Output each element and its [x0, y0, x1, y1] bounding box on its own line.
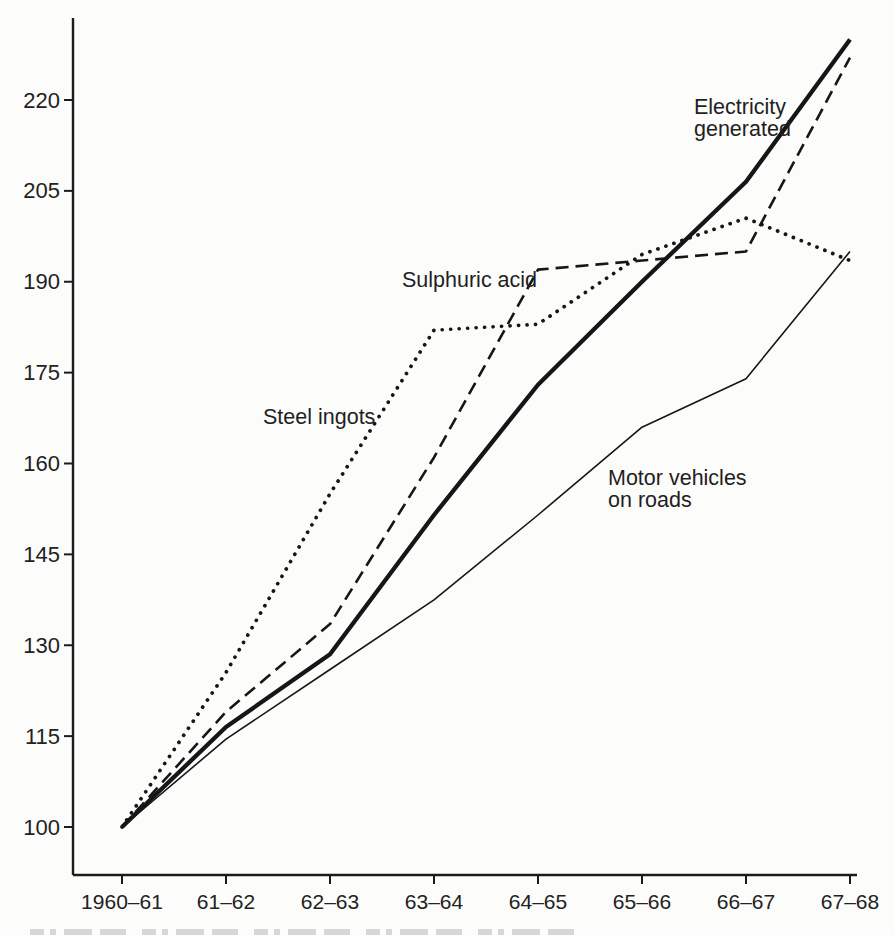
index-line-chart: 1001151301451601751902052201960–6161–626…: [0, 0, 895, 935]
scanned-chart-page: 1001151301451601751902052201960–6161–626…: [0, 0, 895, 935]
x-tick-label: 1960–61: [81, 890, 163, 913]
y-tick-label: 130: [23, 633, 60, 658]
series-label-motor-vehicles-on-roads: Motor vehicleson roads: [608, 466, 747, 512]
x-tick-label: 61–62: [197, 890, 255, 913]
series-label-steel-ingots: Steel ingots: [263, 405, 375, 429]
y-tick-label: 145: [23, 542, 60, 567]
y-tick-label: 205: [23, 178, 60, 203]
x-tick-label: 67–68: [821, 890, 879, 913]
y-tick-label: 175: [23, 360, 60, 385]
y-tick-label: 100: [23, 815, 60, 840]
y-tick-label: 220: [23, 88, 60, 113]
x-tick-label: 65–66: [613, 890, 671, 913]
y-tick-label: 190: [23, 269, 60, 294]
series-line-motor-vehicles-on-roads: [122, 251, 850, 827]
y-tick-label: 160: [23, 451, 60, 476]
x-tick-label: 63–64: [405, 890, 464, 913]
series-label-sulphuric-acid: Sulphuric acid: [402, 268, 537, 292]
x-tick-label: 62–63: [301, 890, 359, 913]
x-tick-label: 64–65: [509, 890, 567, 913]
series-label-electricity-generated: Electricitygenerated: [694, 95, 791, 141]
series-line-sulphuric-acid: [122, 58, 850, 827]
cropped-caption-remnant: [30, 929, 586, 935]
y-tick-label: 115: [25, 724, 60, 749]
x-tick-label: 66–67: [717, 890, 775, 913]
